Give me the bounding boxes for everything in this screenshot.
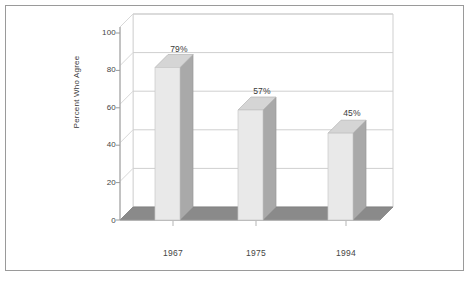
y-tick-label-0: 0 bbox=[86, 216, 116, 225]
bar-side-face bbox=[180, 55, 193, 221]
y-axis-title: Percent Who Agree bbox=[72, 47, 81, 137]
chart-x-ticks bbox=[173, 220, 346, 226]
x-tick-label-1994: 1994 bbox=[316, 248, 376, 258]
chart-y-ticks bbox=[116, 33, 120, 220]
x-tick-label-1975: 1975 bbox=[226, 248, 286, 258]
bar-front-face bbox=[238, 110, 263, 220]
y-tick-label-40: 40 bbox=[86, 140, 116, 149]
chart-bar-1975 bbox=[238, 97, 276, 220]
y-tick-label-20: 20 bbox=[86, 178, 116, 187]
chart-bar-1994 bbox=[328, 120, 366, 220]
bar-side-face bbox=[263, 97, 276, 220]
chart-screenshot: 100 80 60 40 20 0 Percent Who Agree 1967… bbox=[0, 0, 471, 281]
y-tick-label-100: 100 bbox=[86, 28, 116, 37]
y-tick-label-80: 80 bbox=[86, 65, 116, 74]
bar-side-face bbox=[353, 120, 366, 220]
data-label-1994: 45% bbox=[330, 108, 374, 118]
data-label-1967: 79% bbox=[157, 44, 201, 54]
bar-front-face bbox=[328, 133, 353, 220]
x-tick-label-1967: 1967 bbox=[143, 248, 203, 258]
y-tick-label-60: 60 bbox=[86, 103, 116, 112]
bar-front-face bbox=[155, 68, 180, 221]
chart-plot-area bbox=[0, 0, 471, 281]
chart-left-wall bbox=[120, 14, 133, 220]
chart-bar-1967 bbox=[155, 55, 193, 221]
data-label-1975: 57% bbox=[240, 86, 284, 96]
